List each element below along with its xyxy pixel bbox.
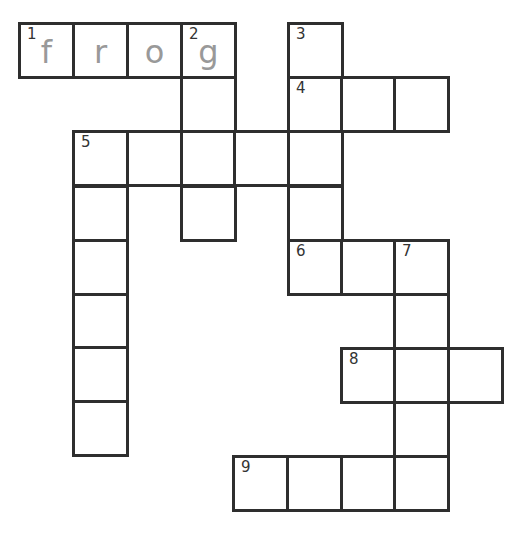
cell-letter: f [21, 27, 72, 76]
cell-letter [75, 298, 126, 347]
cell-letter [290, 27, 341, 76]
crossword-cell[interactable] [393, 455, 450, 512]
crossword-cell[interactable] [126, 130, 183, 187]
crossword-cell[interactable]: o [126, 22, 183, 79]
cell-letter [343, 460, 394, 509]
cell-letter [396, 460, 447, 509]
crossword-cell[interactable] [72, 400, 129, 457]
cell-letter [75, 135, 126, 184]
cell-letter [75, 405, 126, 454]
cell-letter [75, 244, 126, 293]
cell-letter [343, 81, 394, 130]
crossword-cell[interactable] [447, 347, 504, 404]
crossword-cell[interactable] [340, 76, 397, 133]
crossword-cell[interactable]: 2g [180, 22, 237, 79]
crossword-cell[interactable] [340, 455, 397, 512]
cell-letter [183, 135, 234, 184]
crossword-cell[interactable]: 6 [287, 239, 344, 296]
cell-letter [290, 244, 341, 293]
crossword-cell[interactable]: 8 [340, 347, 397, 404]
crossword-cell[interactable]: 5 [72, 130, 129, 187]
cell-letter [343, 352, 394, 401]
crossword-cell[interactable] [180, 130, 237, 187]
cell-letter [396, 352, 447, 401]
crossword-cell[interactable] [393, 347, 450, 404]
cell-letter [290, 81, 341, 130]
cell-letter [129, 135, 180, 184]
crossword-cell[interactable]: 7 [393, 239, 450, 296]
cell-letter [290, 135, 341, 184]
cell-letter [235, 460, 286, 509]
crossword-cell[interactable] [72, 346, 129, 403]
crossword-cell[interactable] [287, 130, 344, 187]
cell-letter [183, 81, 234, 130]
cell-letter: g [183, 27, 234, 76]
cell-letter [75, 351, 126, 400]
crossword-cell[interactable] [180, 76, 237, 133]
cell-letter [396, 406, 447, 455]
cell-letter [236, 135, 287, 184]
cell-letter [75, 190, 126, 239]
cell-letter: r [75, 27, 126, 76]
crossword-cell[interactable] [72, 185, 129, 242]
crossword-cell[interactable] [180, 185, 237, 242]
crossword-cell[interactable]: 4 [287, 76, 344, 133]
crossword-cell[interactable] [340, 239, 397, 296]
crossword-cell[interactable] [393, 76, 450, 133]
cell-letter: o [129, 27, 180, 76]
crossword-cell[interactable] [393, 401, 450, 458]
crossword-cell[interactable]: r [72, 22, 129, 79]
cell-letter [289, 460, 340, 509]
cell-letter [396, 81, 447, 130]
crossword-cell[interactable]: 9 [232, 455, 289, 512]
crossword-cell[interactable]: 1f [18, 22, 75, 79]
crossword-cell[interactable] [286, 455, 343, 512]
crossword-cell[interactable] [72, 293, 129, 350]
crossword-cell[interactable] [393, 293, 450, 350]
cell-letter [396, 244, 447, 293]
crossword-cell[interactable] [233, 130, 290, 187]
cell-letter [450, 352, 501, 401]
crossword-grid: 1fro2g3456789 [0, 0, 528, 542]
crossword-cell[interactable]: 3 [287, 22, 344, 79]
cell-letter [183, 190, 234, 239]
cell-letter [343, 244, 394, 293]
cell-letter [290, 190, 341, 239]
crossword-cell[interactable] [287, 185, 344, 242]
crossword-cell[interactable] [72, 239, 129, 296]
cell-letter [396, 298, 447, 347]
